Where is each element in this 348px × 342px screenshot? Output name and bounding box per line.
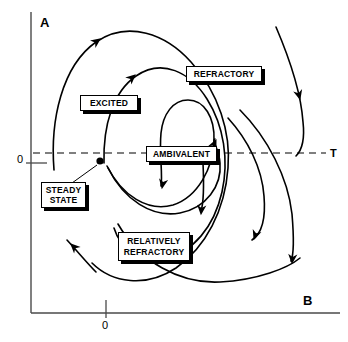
steady-state-group (72, 157, 104, 183)
threshold-label: T (330, 148, 337, 159)
callout-steady-state-line-0: STEADY (46, 185, 82, 195)
callout-relatively-refractory-line-0: RELATIVELY (127, 236, 180, 246)
callout-steady-state: STEADY STATE (41, 182, 86, 208)
callout-refractory-line-0: REFRACTORY (194, 69, 255, 79)
callout-steady-state-line-1: STATE (50, 195, 78, 205)
steady-state-point (96, 157, 103, 164)
callout-ambivalent: AMBIVALENT (146, 146, 217, 162)
callout-excited-line-0: EXCITED (90, 98, 128, 108)
callout-relatively-refractory: RELATIVELY REFRACTORY (118, 232, 190, 261)
callout-relatively-refractory-line-1: REFRACTORY (124, 247, 185, 257)
x-axis-origin-label: 0 (102, 320, 108, 331)
phase-plane-figure: A B T 0 0 REFRACTORY EXCITED AMBIVALENT … (0, 0, 348, 342)
arrowhead-third-spiral-0 (157, 178, 168, 190)
trajectory-outer-descending-right (228, 118, 264, 240)
horizontal-axis-label: B (303, 294, 312, 307)
axes-group (26, 12, 340, 318)
callout-ambivalent-line-0: AMBIVALENT (153, 149, 210, 159)
steady-state-leader-line (72, 165, 97, 183)
trajectory-outermost-descending-right (240, 110, 293, 261)
trajectory-incoming-top-right (276, 27, 304, 156)
phase-plane-plot (0, 0, 348, 342)
y-axis-origin-label: 0 (17, 154, 23, 165)
callout-refractory: REFRACTORY (186, 66, 262, 82)
callout-excited: EXCITED (80, 95, 138, 111)
arrowhead-incoming-top-right-0 (293, 89, 305, 101)
vertical-axis-label: A (40, 16, 49, 29)
